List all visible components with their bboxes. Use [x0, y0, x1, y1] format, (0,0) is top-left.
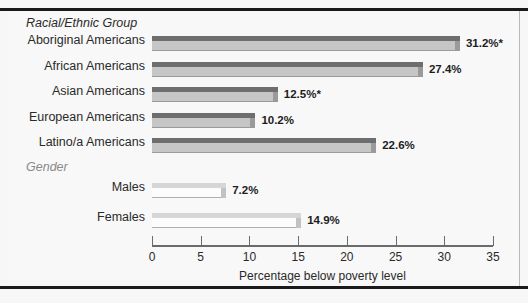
bar: [152, 36, 460, 51]
bar-front-face: [152, 40, 456, 51]
x-axis-tick-label: 15: [278, 250, 318, 264]
bar-end-face: [455, 40, 460, 51]
bar-front-face: [152, 187, 222, 198]
bar-end-face: [221, 187, 226, 198]
x-axis-tick-label: 35: [473, 250, 513, 264]
bar-front-face: [152, 66, 419, 77]
bar-top-face: [152, 213, 301, 218]
bar-value-label: 12.5%*: [284, 88, 321, 100]
category-label: Females: [97, 210, 145, 224]
bar-front-face: [152, 217, 297, 228]
x-axis-tick-label: 10: [229, 250, 269, 264]
bar: [152, 183, 226, 198]
category-label: African Americans: [44, 59, 145, 73]
bar: [152, 87, 278, 102]
x-axis-tick: [444, 236, 445, 246]
bar: [152, 213, 301, 228]
category-label: Aboriginal Americans: [28, 33, 145, 47]
bar-value-label: 31.2%*: [466, 37, 503, 49]
bar-top-face: [152, 62, 423, 67]
bar: [152, 138, 376, 153]
x-axis-tick: [298, 236, 299, 246]
group-header-gender: Gender: [26, 160, 68, 174]
x-axis-tick-label: 20: [327, 250, 367, 264]
x-axis-tick-label: 0: [132, 250, 172, 264]
bar-end-face: [296, 217, 301, 228]
x-axis-tick: [396, 236, 397, 246]
bar-top-face: [152, 36, 460, 41]
bar-top-face: [152, 138, 376, 143]
x-axis-tick: [347, 236, 348, 246]
category-label: Asian Americans: [52, 84, 145, 98]
bar-front-face: [152, 91, 274, 102]
group-header-racial-ethnic: Racial/Ethnic Group: [26, 16, 137, 30]
bar-value-label: 10.2%: [261, 114, 294, 126]
category-label: European Americans: [29, 110, 145, 124]
bar-value-label: 27.4%: [429, 63, 462, 75]
bar-value-label: 7.2%: [232, 184, 258, 196]
bar-top-face: [152, 87, 278, 92]
bar: [152, 113, 255, 128]
x-axis-line: [152, 245, 493, 247]
figure-container: Racial/Ethnic Group Gender 0510152025303…: [0, 0, 528, 303]
bar: [152, 62, 423, 77]
bar-front-face: [152, 142, 372, 153]
x-axis-tick: [152, 236, 153, 246]
x-axis-tick: [201, 236, 202, 246]
x-axis-title: Percentage below poverty level: [152, 269, 493, 283]
x-axis-tick-label: 25: [376, 250, 416, 264]
category-label: Males: [112, 180, 145, 194]
bar-front-face: [152, 117, 251, 128]
bar-end-face: [371, 142, 376, 153]
bar-value-label: 14.9%: [307, 214, 340, 226]
frame-right-edge: [519, 11, 520, 286]
bar-top-face: [152, 183, 226, 188]
bar-value-label: 22.6%: [382, 139, 415, 151]
bar-end-face: [250, 117, 255, 128]
category-label: Latino/a Americans: [39, 135, 145, 149]
bottom-rule: [0, 286, 528, 289]
x-axis-tick-label: 5: [181, 250, 221, 264]
x-axis-tick-label: 30: [424, 250, 464, 264]
bar-end-face: [418, 66, 423, 77]
bar-end-face: [273, 91, 278, 102]
x-axis-tick: [493, 236, 494, 246]
bar-top-face: [152, 113, 255, 118]
x-axis-tick: [249, 236, 250, 246]
